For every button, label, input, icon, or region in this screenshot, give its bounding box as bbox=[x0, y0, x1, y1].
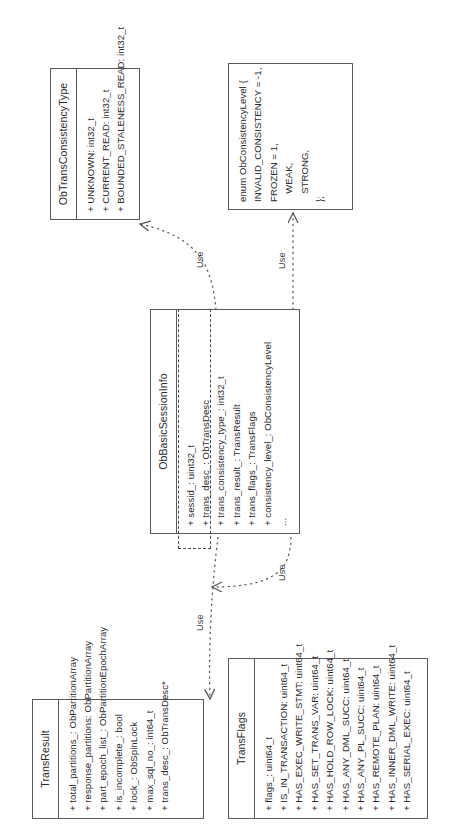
class-box-obtransconsistencytype[interactable]: ObTransConsistencyType + UNKNOWN: int32_… bbox=[50, 68, 140, 220]
class-title-transflags: TransFlags bbox=[229, 659, 255, 818]
class-member: + IS_IN_TRANSACTION: uint64_t bbox=[276, 666, 291, 811]
class-member: + UNKNOWN: int32_t bbox=[83, 76, 98, 212]
class-member: + trans_desc_: ObTransDesc bbox=[198, 317, 213, 526]
note-line: STRONG, bbox=[297, 70, 312, 202]
edge-label-use-obtransconsistencytype: Use bbox=[196, 251, 205, 268]
class-box-obbasicsessioninfo[interactable]: ObBasicSessionInfo + sessid_: uint32_t +… bbox=[150, 309, 300, 534]
note-line: INVALID_CONSISTENCY = -1, bbox=[250, 70, 265, 202]
class-member: + HAS_ANY_PL_SUCC: uint64_t bbox=[353, 666, 368, 811]
edge-label-use-transflags: Use bbox=[278, 564, 287, 581]
class-member: + HAS_SERIAL_EXEC: uint64_t bbox=[399, 666, 414, 811]
note-line: WEAK, bbox=[281, 70, 296, 202]
class-member: + sessid_: uint32_t bbox=[183, 317, 198, 526]
edge-label-use-transresult: Use bbox=[196, 614, 205, 631]
class-title-obtransconsistencytype: ObTransConsistencyType bbox=[51, 69, 77, 219]
uml-diagram: Use Use Use Use TransResult + total_part… bbox=[0, 0, 451, 837]
note-line: enum ObConsistencyLevel { bbox=[235, 70, 250, 202]
class-member: + response_partitions: ObPartitionArray bbox=[80, 707, 95, 811]
class-box-transresult[interactable]: TransResult + total_partitions_: ObParti… bbox=[32, 699, 204, 819]
class-members-transresult: + total_partitions_: ObPartitionArray + … bbox=[59, 700, 204, 818]
note-box-obconsistencylevel[interactable]: enum ObConsistencyLevel { INVALID_CONSIS… bbox=[228, 63, 353, 210]
class-member: + HAS_ANY_DML_SUCC: uint64_t bbox=[338, 666, 353, 811]
class-member: + HAS_REMOTE_PLAN: uint64_t bbox=[368, 666, 383, 811]
class-box-transflags[interactable]: TransFlags + flags_: uint64_t + IS_IN_TR… bbox=[228, 658, 428, 819]
note-line: FROZEN = 1, bbox=[266, 70, 281, 202]
diagram-canvas-wrapper: Use Use Use Use TransResult + total_part… bbox=[0, 0, 451, 837]
class-member: + CURRENT_READ: int32_t bbox=[98, 76, 113, 212]
class-member: + total_partitions_: ObPartitionArray bbox=[65, 707, 80, 811]
class-member: + HAS_SET_TRANS_VAR: uint64_t bbox=[307, 666, 322, 811]
class-member: + flags_: uint64_t bbox=[261, 666, 276, 811]
class-member: ... bbox=[275, 317, 290, 526]
class-member: + HAS_HOLD_ROW_LOCK: uint64_t bbox=[322, 666, 337, 811]
edge-label-use-obconsistencylevel: Use bbox=[278, 252, 287, 269]
class-member: + consistency_level_: ObConsistencyLevel bbox=[260, 317, 275, 526]
class-member: + part_epoch_list_: ObPartitionEpochArra… bbox=[95, 707, 110, 811]
class-member: + trans_consistency_type_: int32_t bbox=[213, 317, 228, 526]
class-member: + trans_desc_: ObTransDesc* bbox=[157, 707, 172, 811]
class-member: + is_incomplete_: bool bbox=[111, 707, 126, 811]
edge-use-transresult bbox=[210, 537, 218, 699]
class-member: + trans_flags_: TransFlags bbox=[244, 317, 259, 526]
class-title-transresult: TransResult bbox=[33, 700, 59, 818]
class-title-obbasicsessioninfo: ObBasicSessionInfo bbox=[151, 310, 177, 533]
class-member: + max_sql_no_: int64_t bbox=[142, 707, 157, 811]
class-members-transflags: + flags_: uint64_t + IS_IN_TRANSACTION: … bbox=[255, 659, 428, 818]
class-member: + HAS_EXEC_WRITE_STMT: uint64_t bbox=[291, 666, 306, 811]
class-members-obbasicsessioninfo: + sessid_: uint32_t + trans_desc_: ObTra… bbox=[177, 310, 300, 533]
class-member: + trans_result_: TransResult bbox=[229, 317, 244, 526]
note-line: }; bbox=[312, 70, 327, 202]
class-member: + HAS_INNER_DML_WRITE: uint64_t bbox=[384, 666, 399, 811]
class-members-obtransconsistencytype: + UNKNOWN: int32_t + CURRENT_READ: int32… bbox=[77, 69, 140, 219]
class-member: + BOUNDED_STALENESS_READ: int32_t bbox=[113, 76, 128, 212]
class-member: + lock_: ObSpinLock bbox=[126, 707, 141, 811]
